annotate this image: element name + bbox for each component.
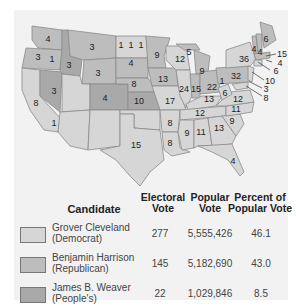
popular-vote: 1,029,846 <box>180 288 240 299</box>
state-co <box>90 84 128 110</box>
electoral-vote: 22 <box>140 288 180 299</box>
svg-text:11: 11 <box>231 104 240 114</box>
svg-text:1: 1 <box>138 40 143 50</box>
svg-text:3: 3 <box>89 42 94 52</box>
svg-text:1: 1 <box>219 76 224 86</box>
electoral-vote: 145 <box>140 258 180 269</box>
svg-text:36: 36 <box>239 54 249 64</box>
svg-text:8: 8 <box>131 79 136 89</box>
legend-swatch-democrat <box>20 227 46 243</box>
svg-text:15: 15 <box>131 140 141 150</box>
svg-text:1: 1 <box>49 54 54 64</box>
header-percent: Percent of Popular Vote <box>228 192 292 214</box>
svg-text:22: 22 <box>207 82 217 92</box>
svg-text:8: 8 <box>263 93 268 103</box>
svg-text:6: 6 <box>222 88 227 98</box>
state-fl <box>198 144 244 176</box>
svg-text:1: 1 <box>128 40 133 50</box>
candidate-name: James B. Weaver (People's) <box>52 282 131 304</box>
svg-text:12: 12 <box>175 54 185 64</box>
legend-swatch-peoples <box>20 287 46 303</box>
svg-text:8: 8 <box>33 98 38 108</box>
svg-text:3: 3 <box>95 68 100 78</box>
svg-text:9: 9 <box>184 128 189 138</box>
svg-text:9: 9 <box>229 116 234 126</box>
svg-text:1: 1 <box>118 40 123 50</box>
svg-text:8: 8 <box>167 118 172 128</box>
table-row-cleveland: Grover Cleveland (Democrat) 277 5,555,42… <box>14 220 288 250</box>
header-candidate: Candidate <box>54 204 134 215</box>
candidate-name: Benjamin Harrison (Republican) <box>52 252 134 274</box>
percent-popular: 43.0 <box>236 258 286 269</box>
svg-text:13: 13 <box>214 123 224 133</box>
percent-popular: 8.5 <box>236 288 286 299</box>
svg-text:3: 3 <box>35 52 40 62</box>
svg-text:15: 15 <box>191 84 201 94</box>
svg-text:3: 3 <box>51 86 56 96</box>
svg-text:4: 4 <box>45 34 50 44</box>
state-or <box>22 48 62 70</box>
svg-text:3: 3 <box>66 60 71 70</box>
svg-text:4: 4 <box>251 44 256 54</box>
svg-text:9: 9 <box>154 50 159 60</box>
candidate-name: Grover Cleveland (Democrat) <box>52 222 130 244</box>
svg-text:9: 9 <box>199 66 204 76</box>
popular-vote: 5,555,426 <box>180 228 240 239</box>
svg-text:5: 5 <box>186 47 191 57</box>
svg-text:4: 4 <box>102 93 107 103</box>
svg-text:11: 11 <box>196 127 205 137</box>
svg-text:4: 4 <box>128 58 133 68</box>
svg-text:1: 1 <box>51 118 56 128</box>
svg-text:4: 4 <box>230 156 235 166</box>
svg-text:6: 6 <box>263 34 268 44</box>
electoral-vote: 277 <box>140 228 180 239</box>
svg-text:24: 24 <box>179 84 189 94</box>
svg-text:32: 32 <box>231 71 241 81</box>
popular-vote: 5,182,690 <box>180 258 240 269</box>
us-electoral-map: 4 3 1 8 1 3 3 3 3 1 1 1 4 4 8 10 15 9 13… <box>0 0 296 190</box>
state-nm <box>88 110 120 150</box>
table-row-weaver: James B. Weaver (People's) 22 1,029,846 … <box>14 280 288 306</box>
svg-text:6: 6 <box>273 66 278 76</box>
table-row-harrison: Benjamin Harrison (Republican) 145 5,182… <box>14 250 288 280</box>
state-ct <box>254 60 262 66</box>
svg-text:10: 10 <box>134 96 144 106</box>
svg-text:12: 12 <box>195 108 205 118</box>
legend-swatch-republican <box>20 257 46 273</box>
percent-popular: 46.1 <box>236 228 286 239</box>
state-az <box>58 110 90 150</box>
state-nj <box>248 66 254 82</box>
svg-text:13: 13 <box>204 94 214 104</box>
svg-text:13: 13 <box>158 74 168 84</box>
svg-text:17: 17 <box>165 96 175 106</box>
svg-text:4: 4 <box>257 47 262 57</box>
svg-text:12: 12 <box>233 94 243 104</box>
svg-text:8: 8 <box>167 138 172 148</box>
